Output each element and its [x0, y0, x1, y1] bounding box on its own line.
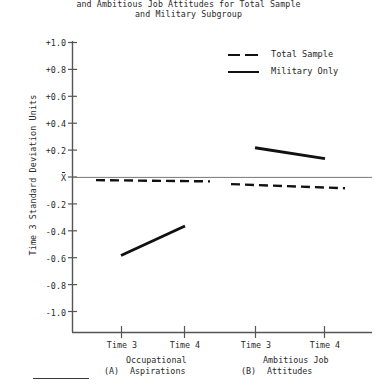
- x-tick-label: Time 4: [170, 340, 200, 350]
- panel-name-b-line1: Ambitious Job: [241, 355, 329, 366]
- x-tick-label: Time 3: [241, 340, 271, 350]
- plot-area: [0, 0, 377, 392]
- panel-caption-a: (A) Occupational Aspirations: [104, 355, 187, 376]
- panel-letter-b: (B): [241, 366, 256, 377]
- panel-name-a-line1: Occupational: [104, 355, 187, 366]
- panel-caption-b: (B) Ambitious Job Attitudes: [241, 355, 329, 376]
- x-tick-label: Time 4: [310, 340, 340, 350]
- series-line-total-sample-panel-b: [231, 184, 345, 188]
- series-line-total-sample-panel-a: [96, 180, 210, 181]
- figure-container: Figure 2. Mean Changes in Occupational A…: [0, 0, 377, 392]
- x-tick-label-group: Time 3 Time 4 Time 3 Time 4: [0, 340, 377, 356]
- x-tick-label: Time 3: [107, 340, 137, 350]
- series-line-military-only-panel-a: [121, 226, 185, 256]
- footnote-rule: [33, 378, 89, 379]
- panel-letter-a: (A): [104, 366, 119, 377]
- series-line-military-only-panel-b: [255, 148, 325, 159]
